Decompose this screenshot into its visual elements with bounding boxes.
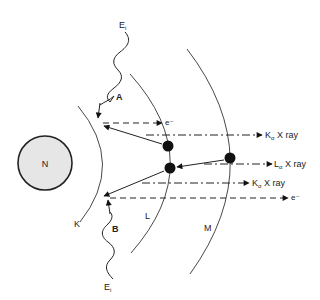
emission-kalpha-lower-label: Kα X ray	[252, 178, 285, 189]
photon-a-energy-label: Ei	[119, 20, 126, 31]
m-shell-arc	[187, 49, 230, 274]
nucleus-label: N	[42, 159, 49, 169]
incident-photon-a: Ei A	[98, 20, 129, 118]
emission-kalpha-upper-label: Kα X ray	[265, 130, 298, 141]
photon-b-energy-label: Ei	[104, 282, 111, 293]
k-shell-arc	[78, 106, 103, 222]
emission-electron-bottom: e⁻	[110, 193, 300, 202]
emission-lalpha-label: Lα X ray	[274, 159, 306, 170]
l-shell-electron-lower	[165, 163, 176, 174]
m-shell-label: M	[204, 223, 212, 233]
emission-electron-top-label: e⁻	[165, 118, 174, 127]
l-shell-arc	[130, 74, 170, 253]
event-a-label: A	[116, 92, 123, 102]
l-shell-electron-upper	[163, 141, 174, 152]
emission-kalpha-upper: Kα X ray	[146, 130, 298, 141]
k-shell-label: K	[74, 219, 80, 229]
m-shell-electron	[225, 153, 236, 164]
event-b-label: B	[112, 224, 119, 234]
incident-photon-b: Ei B	[102, 200, 119, 293]
diagram-canvas: N K L M Ei A Ei B e⁻ Kα X ray Lα X ray	[0, 0, 320, 300]
emission-kalpha-lower: Kα X ray	[142, 178, 285, 189]
l-shell-label: L	[145, 211, 150, 221]
nucleus: N	[18, 136, 72, 190]
emission-electron-bottom-label: e⁻	[291, 193, 300, 202]
